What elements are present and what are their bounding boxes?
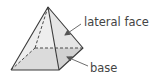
base-label: base: [90, 61, 117, 75]
pyramid-diagram: lateral face base: [0, 0, 153, 77]
base-leader-arrow: [67, 57, 88, 66]
lateral-face-label: lateral face: [84, 15, 149, 29]
